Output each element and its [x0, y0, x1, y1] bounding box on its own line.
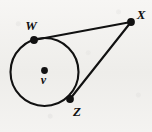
segment-wx [34, 22, 131, 40]
point-dot-w [30, 36, 38, 44]
point-label-v: v [41, 73, 47, 87]
figure-canvas: v W X Z [0, 0, 152, 132]
point-label-w: W [25, 18, 38, 33]
point-dot-x [127, 18, 135, 26]
geometry-figure: v W X Z [0, 0, 152, 132]
point-label-z: Z [72, 104, 81, 119]
point-label-x: X [136, 7, 146, 22]
segment-zx [70, 22, 131, 99]
point-dot-z [66, 95, 74, 103]
